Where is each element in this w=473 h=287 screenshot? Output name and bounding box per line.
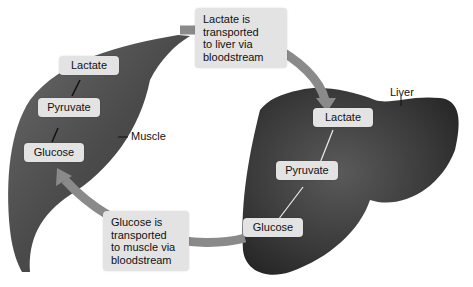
muscle-label: Muscle [131, 130, 166, 142]
transport-to-liver-line: transported [203, 26, 279, 39]
transport-to-muscle-line: Glucose is [111, 216, 181, 229]
muscle-step-lactate: Lactate [59, 56, 119, 75]
liver-step-pyruvate: Pyruvate [276, 161, 338, 180]
transport-to-muscle-box: Glucose is transported to muscle via blo… [103, 211, 189, 271]
muscle-step-glucose: Glucose [24, 143, 84, 162]
transport-to-liver-box: Lactate is transported to liver via bloo… [195, 8, 287, 68]
liver-step-lactate: Lactate [313, 108, 373, 127]
transport-to-muscle-line: to muscle via [111, 241, 181, 254]
transport-to-liver-line: Lactate is [203, 13, 279, 26]
transport-to-muscle-line: bloodstream [111, 254, 181, 267]
transport-to-liver-line: bloodstream [203, 51, 279, 64]
liver-step-glucose: Glucose [243, 218, 303, 237]
muscle-step-pyruvate: Pyruvate [38, 98, 100, 117]
transport-to-liver-line: to liver via [203, 38, 279, 51]
transport-to-muscle-line: transported [111, 229, 181, 242]
liver-label: Liver [390, 86, 414, 98]
